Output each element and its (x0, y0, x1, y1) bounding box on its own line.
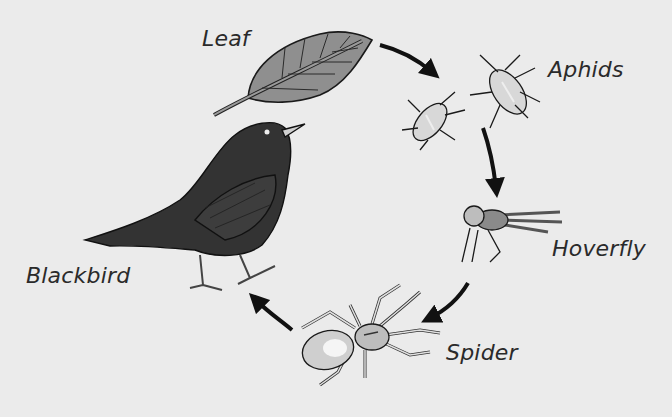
hoverfly-icon (462, 206, 562, 262)
label-blackbird: Blackbird (26, 263, 130, 288)
arrow-leaf-to-aphids (380, 45, 432, 72)
label-aphids: Aphids (548, 57, 624, 82)
label-spider: Spider (446, 340, 518, 365)
arrow-aphids-to-hoverfly (483, 128, 496, 188)
aphids-icon (402, 55, 540, 150)
label-hoverfly: Hoverfly (552, 236, 646, 261)
spider-icon (298, 285, 440, 385)
food-chain-diagram: Leaf Aphids Hoverfly Spider Blackbird (0, 0, 672, 417)
arrow-spider-to-blackbird (256, 300, 292, 330)
arrow-hoverfly-to-spider (430, 283, 468, 318)
label-leaf: Leaf (202, 26, 250, 51)
